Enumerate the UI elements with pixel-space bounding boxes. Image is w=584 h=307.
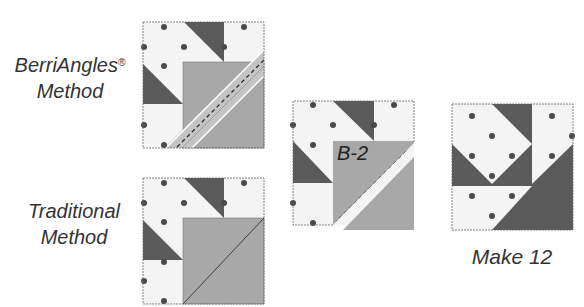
- b2-unit-label: B-2: [337, 142, 368, 165]
- berriangles-method-label: BerriAngles® Method: [4, 52, 136, 104]
- method-text: Method: [37, 80, 104, 102]
- traditional-text: Traditional: [28, 200, 120, 222]
- b2-block-diagram: B-2: [290, 99, 420, 234]
- berriangles-text: BerriAngles: [15, 54, 118, 76]
- traditional-method-label: Traditional Method: [18, 198, 130, 250]
- finished-block-diagram: [450, 102, 576, 232]
- berriangles-block-diagram: [140, 20, 270, 152]
- registered-mark: ®: [118, 57, 125, 68]
- make-12-label: Make 12: [450, 244, 574, 270]
- traditional-block-diagram: [140, 176, 270, 307]
- b2-block-svg: [290, 99, 420, 234]
- make-12-text: Make 12: [472, 245, 553, 268]
- method-text: Method: [41, 226, 108, 248]
